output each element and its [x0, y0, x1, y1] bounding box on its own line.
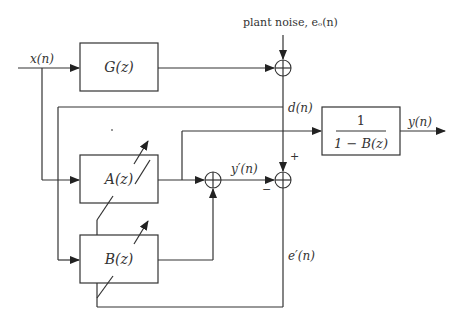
block-b-label: B(z)	[104, 251, 134, 267]
noise-label: plant noise, eₒ(n)	[243, 16, 338, 29]
input-label: x(n)	[30, 52, 54, 66]
block-g-label: G(z)	[104, 59, 133, 75]
error-sum	[275, 172, 291, 188]
block-a-label: A(z)	[103, 171, 133, 187]
input-signal: x(n)	[18, 52, 79, 68]
plant-noise-sum	[275, 60, 291, 76]
error-label: e′(n)	[288, 249, 315, 263]
output-label: y(n)	[407, 115, 432, 129]
block-g: G(z)	[80, 43, 158, 91]
minus-sign: −	[262, 183, 271, 196]
estimate-label: y′(n)	[230, 162, 258, 176]
input-branch	[42, 68, 79, 180]
inverse-denominator: 1 − B(z)	[334, 136, 388, 151]
block-b: B(z)	[80, 235, 158, 283]
block-inverse: 1 1 − B(z)	[322, 107, 400, 155]
b-to-sum-line	[158, 189, 213, 260]
block-a: A(z)	[80, 130, 158, 203]
block-diagram: x(n) G(z) plant noise, eₒ(n) d(n) A(z)	[0, 0, 463, 323]
adaptive-sum	[205, 172, 221, 188]
plus-sign: +	[290, 150, 299, 163]
inverse-numerator: 1	[357, 113, 365, 128]
desired-label: d(n)	[288, 101, 313, 115]
